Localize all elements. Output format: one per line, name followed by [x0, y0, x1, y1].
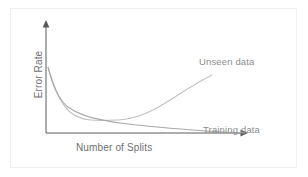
curve-unseen-data [48, 67, 212, 121]
x-axis-label: Number of Splits [76, 142, 152, 153]
y-axis-arrow-icon [43, 20, 50, 28]
annotation-unseen-data: Unseen data [199, 56, 255, 67]
chart-plot-area [0, 0, 308, 177]
y-axis-label: Error Rate [33, 35, 44, 115]
chart-figure: Unseen data Training data Number of Spli… [0, 0, 308, 177]
annotation-training-data: Training data [203, 124, 260, 135]
curve-training-data [48, 67, 245, 133]
